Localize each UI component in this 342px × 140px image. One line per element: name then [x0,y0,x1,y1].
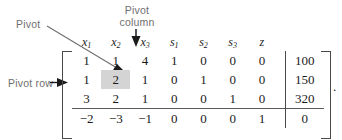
tableau-cell: 0 [247,70,276,89]
tableau-cell: 0 [247,89,276,109]
tableau-cell: 1 [130,89,159,109]
tableau-gap-cell [277,109,286,129]
tableau-cell: 0 [218,70,247,89]
tableau-header-rhs [285,33,324,51]
tableau-cell: 1 [247,109,276,129]
pivot-column-label-line2: column [109,16,165,28]
tableau-gap-cell [277,89,286,109]
tableau-cell: 4 [130,51,159,70]
simplex-tableau-figure: Pivot Pivot column Pivot row x1x2x3s1s2s… [0,0,342,140]
pivot-column-annotation-label: Pivot column [109,4,165,28]
tableau-row: 1210100150 [72,70,324,89]
tableau-cell: 1 [189,70,218,89]
tableau-rhs-cell: 320 [285,89,324,109]
trailing-period: . [333,79,336,95]
tableau-header-gap [277,33,286,51]
tableau-row: 3210010320 [72,89,324,109]
tableau-header-s1: s1 [160,33,189,51]
tableau-row: 1141000100 [72,51,324,70]
tableau-cell: 1 [160,51,189,70]
tableau-table: x1x2x3s1s2s3z114100010012101001503210010… [72,33,324,128]
tableau-header-x3: x3 [130,33,159,51]
tableau-header-s3: s3 [218,33,247,51]
tableau-cell: 0 [189,109,218,129]
tableau-cell: 0 [218,109,247,129]
tableau-cell: 1 [72,51,101,70]
tableau-cell: −2 [72,109,101,129]
tableau-header-row: x1x2x3s1s2s3z [72,33,324,51]
matrix-left-bracket [62,51,72,139]
tableau-cell: 0 [247,51,276,70]
tableau-rhs-cell: 0 [285,109,324,129]
tableau-pivot-element: 2 [101,70,130,89]
tableau-header-x1: x1 [72,33,101,51]
pivot-row-annotation-label: Pivot row [8,77,53,89]
tableau-header-x2: x2 [101,33,130,51]
tableau-rhs-cell: 150 [285,70,324,89]
tableau-cell: 0 [160,109,189,129]
pivot-column-label-line1: Pivot [109,4,165,16]
tableau-cell: 1 [101,51,130,70]
tableau-objective-row: −2−3−100010 [72,109,324,129]
tableau-cell: −1 [130,109,159,129]
tableau-rhs-cell: 100 [285,51,324,70]
tableau-cell: −3 [101,109,130,129]
tableau-cell: 1 [218,89,247,109]
pivot-annotation-label: Pivot [16,18,40,30]
tableau-matrix: x1x2x3s1s2s3z114100010012101001503210010… [72,33,324,128]
tableau-cell: 0 [218,51,247,70]
tableau-cell: 0 [189,89,218,109]
tableau-header-s2: s2 [189,33,218,51]
tableau-gap-cell [277,70,286,89]
tableau-cell: 3 [72,89,101,109]
tableau-cell: 2 [101,89,130,109]
tableau-cell: 0 [160,70,189,89]
tableau-cell: 1 [72,70,101,89]
tableau-header-z: z [247,33,276,51]
tableau-cell: 0 [160,89,189,109]
tableau-cell: 1 [130,70,159,89]
tableau-gap-cell [277,51,286,70]
tableau-cell: 0 [189,51,218,70]
